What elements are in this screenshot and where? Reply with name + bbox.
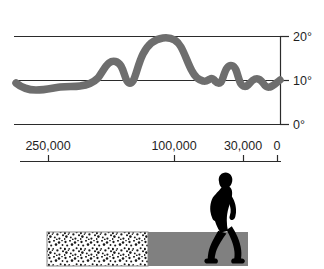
y-axis-label-10: 10° [293, 74, 312, 88]
x-axis-label-0: 0 [274, 139, 281, 153]
stippled-bar-segment [47, 232, 148, 266]
hominid-illustration [47, 173, 248, 266]
climate-curve-figure: 20° 10° 0° 250,000 100,000 30,000 0 [0, 0, 324, 269]
chart-plot-area: 20° 10° 0° 250,000 100,000 30,000 0 [14, 30, 312, 162]
x-axis-label-100000: 100,000 [151, 139, 196, 153]
x-axis-label-250000: 250,000 [25, 139, 70, 153]
y-axis-label-0: 0° [293, 118, 305, 132]
y-axis-label-20: 20° [293, 30, 312, 44]
temperature-curve [16, 38, 280, 90]
x-axis-label-30000: 30,000 [224, 139, 262, 153]
